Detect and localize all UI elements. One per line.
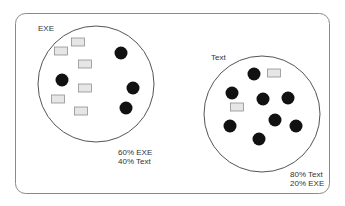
exe-file-dot-icon: [226, 87, 239, 100]
text-file-rect-icon: [75, 107, 88, 115]
text-file-rect-icon: [72, 38, 85, 46]
exe-file-dot-icon: [282, 92, 295, 105]
text-file-rect-icon: [55, 47, 68, 55]
exe-stat-line: 60% EXE: [118, 148, 152, 157]
text-file-rect-icon: [79, 60, 92, 68]
exe-file-dot-icon: [253, 133, 266, 146]
exe-file-dot-icon: [248, 68, 261, 81]
exe-stat-line: 40% Text: [118, 157, 152, 166]
text-file-rect-icon: [52, 95, 65, 103]
text-stat-line: 80% Text: [290, 170, 324, 179]
exe-file-dot-icon: [127, 82, 140, 95]
exe-file-dot-icon: [115, 47, 128, 60]
exe-file-dot-icon: [224, 120, 237, 133]
exe-file-dot-icon: [120, 102, 133, 115]
exe-file-dot-icon: [257, 93, 270, 106]
exe-file-dot-icon: [56, 74, 69, 87]
exe-file-dot-icon: [290, 120, 303, 133]
text-title: Text: [211, 53, 226, 62]
diagram-canvas: EXE60% EXE40% Text Text80% Text20% EXE: [0, 0, 345, 206]
text-file-rect-icon: [79, 84, 92, 92]
text-file-rect-icon: [231, 103, 244, 111]
outer-frame: [16, 14, 330, 194]
exe-file-dot-icon: [269, 114, 282, 127]
text-stat-line: 20% EXE: [290, 179, 324, 188]
exe-title: EXE: [38, 24, 54, 33]
text-file-rect-icon: [268, 69, 281, 77]
